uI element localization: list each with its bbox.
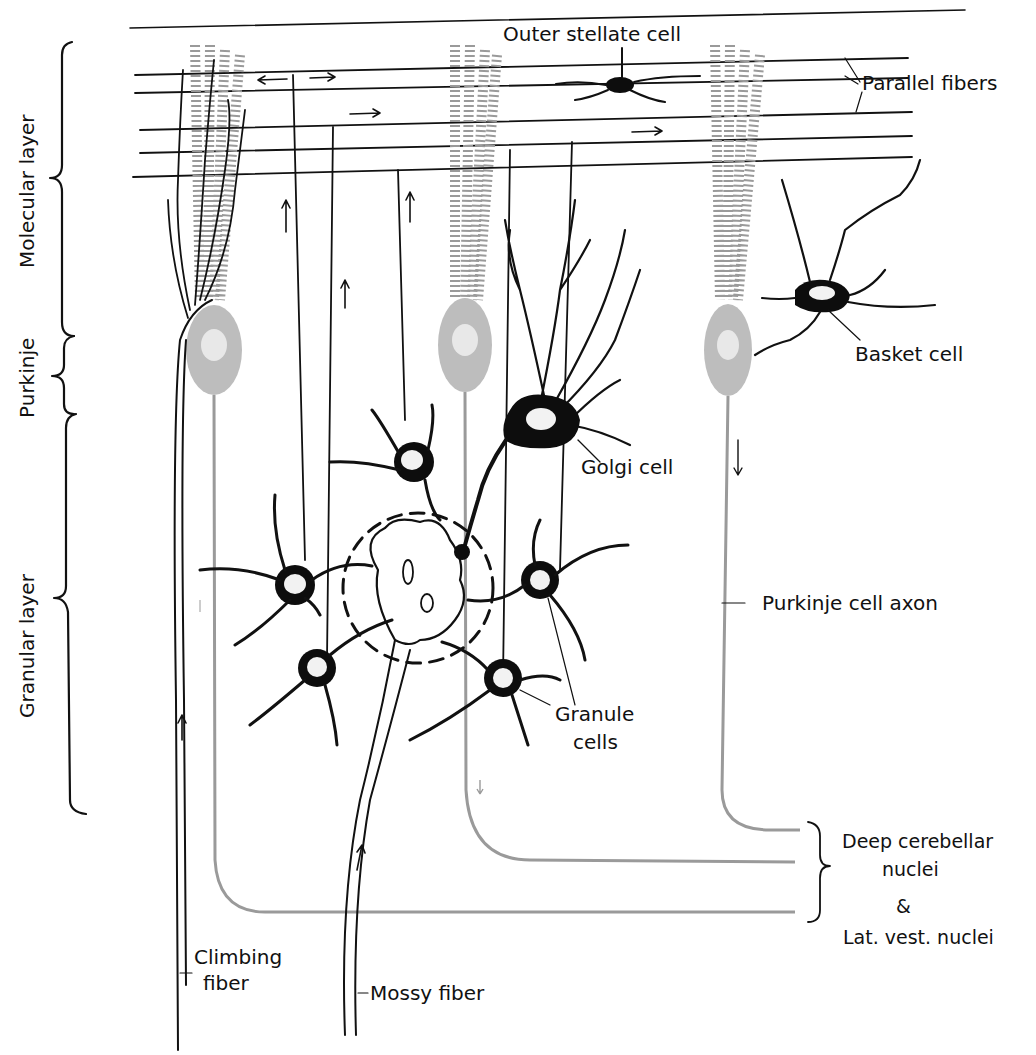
label-outer-stellate-cell: Outer stellate cell (503, 22, 681, 46)
label-basket-cell: Basket cell (855, 342, 963, 366)
label-granule-cells-line1: Granule (555, 702, 634, 726)
parallel-fibers (133, 58, 912, 177)
label-lat-vest-nuclei: Lat. vest. nuclei (843, 926, 994, 948)
label-golgi-cell: Golgi cell (581, 455, 673, 479)
granule-cell-5 (410, 642, 560, 745)
cerebellar-circuit-diagram: Molecular layer Purkinje Granular layer (0, 0, 1036, 1055)
label-parallel-fibers: Parallel fibers (862, 71, 997, 95)
layer-label-molecular: Molecular layer (15, 114, 39, 268)
label-granule-cells-line2: cells (573, 730, 618, 754)
label-ampersand: & (896, 895, 911, 917)
layer-label-granular: Granular layer (15, 573, 39, 718)
label-climbing-fiber-line2: fiber (203, 971, 250, 995)
label-climbing-fiber-line1: Climbing (194, 945, 282, 969)
label-deep-cerebellar-nuclei-line1: Deep cerebellar (842, 830, 993, 852)
label-mossy-fiber: Mossy fiber (370, 981, 485, 1005)
granule-cell-3 (250, 620, 392, 745)
basket-cell (755, 160, 935, 355)
granule-cell-1 (330, 405, 440, 520)
layer-label-purkinje: Purkinje (15, 338, 39, 418)
label-purkinje-cell-axon: Purkinje cell axon (762, 591, 938, 615)
mossy-fiber (343, 513, 493, 1035)
label-deep-cerebellar-nuclei-line2: nuclei (882, 858, 939, 880)
outer-stellate-cell (556, 48, 700, 102)
layer-brackets: Molecular layer Purkinje Granular layer (15, 42, 86, 814)
